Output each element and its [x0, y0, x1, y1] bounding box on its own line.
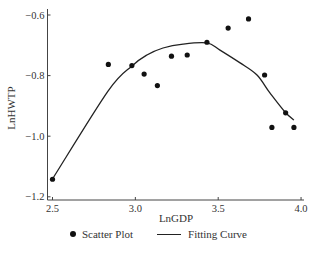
y-tick-label: −0.6	[25, 10, 44, 21]
legend-label-scatter: Scatter Plot	[82, 228, 133, 240]
y-tick-label: −1.2	[25, 191, 44, 202]
scatter-point	[129, 63, 134, 68]
scatter-point	[169, 54, 174, 59]
scatter-point	[106, 62, 111, 67]
scatter-point	[185, 52, 190, 57]
scatter-point	[291, 125, 296, 130]
x-axis-label: LnGDP	[159, 212, 193, 224]
fitting-curve	[53, 43, 294, 179]
scatter-point	[269, 125, 274, 130]
chart-canvas: 2.53.03.54.0−0.6−0.8−1.0−1.2 LnGDP LnHWT…	[0, 0, 317, 259]
legend: Scatter Plot Fitting Curve	[0, 226, 317, 242]
x-tick-label: 2.5	[46, 203, 59, 214]
y-tick-label: −0.8	[25, 70, 44, 81]
legend-label-curve: Fitting Curve	[188, 228, 247, 240]
scatter-point	[155, 83, 160, 88]
x-tick-label: 4.0	[294, 203, 307, 214]
line-icon	[157, 234, 181, 235]
scatter-point	[142, 71, 147, 76]
y-tick-label: −1.0	[25, 131, 44, 142]
scatter-point	[246, 16, 251, 21]
x-tick-label: 3.0	[129, 203, 142, 214]
axes: 2.53.03.54.0−0.6−0.8−1.0−1.2	[25, 9, 307, 214]
scatter-point	[204, 40, 209, 45]
scatter-dot-icon	[70, 231, 76, 237]
scatter-point	[50, 177, 55, 182]
x-tick-label: 3.5	[212, 203, 225, 214]
scatter-points	[50, 16, 297, 181]
legend-item-scatter: Scatter Plot	[70, 228, 133, 240]
scatter-point	[262, 72, 267, 77]
scatter-point	[226, 25, 231, 30]
scatter-point	[283, 110, 288, 115]
y-axis-label: LnHWTP	[5, 86, 17, 129]
fitting-curve-path	[53, 43, 294, 179]
legend-item-curve: Fitting Curve	[157, 228, 247, 240]
